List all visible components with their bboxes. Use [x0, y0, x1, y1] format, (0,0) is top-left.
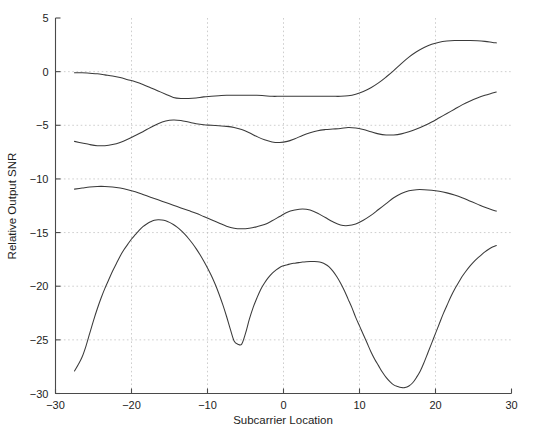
- chart-background: [0, 0, 533, 434]
- chart-figure: −30−20−10010203050−5−10−15−20−25−30 Subc…: [0, 0, 533, 434]
- x-tick-label: 20: [429, 399, 441, 411]
- x-tick-label: −20: [122, 399, 141, 411]
- y-tick-label: −10: [30, 173, 49, 185]
- y-tick-label: −15: [30, 227, 49, 239]
- y-tick-label: −30: [30, 388, 49, 400]
- y-tick-label: 5: [42, 12, 48, 24]
- y-tick-label: −5: [36, 119, 49, 131]
- y-tick-label: −25: [30, 334, 49, 346]
- y-tick-label: 0: [42, 66, 48, 78]
- x-axis-title: Subcarrier Location: [233, 414, 333, 426]
- x-tick-label: 10: [353, 399, 365, 411]
- y-axis-title: Relative Output SNR: [6, 153, 18, 260]
- x-tick-label: −10: [198, 399, 217, 411]
- x-tick-label: 30: [505, 399, 517, 411]
- y-tick-label: −20: [30, 280, 49, 292]
- x-tick-label: −30: [46, 399, 65, 411]
- relative-output-snr-line-chart: −30−20−10010203050−5−10−15−20−25−30 Subc…: [0, 0, 533, 434]
- x-tick-label: 0: [280, 399, 286, 411]
